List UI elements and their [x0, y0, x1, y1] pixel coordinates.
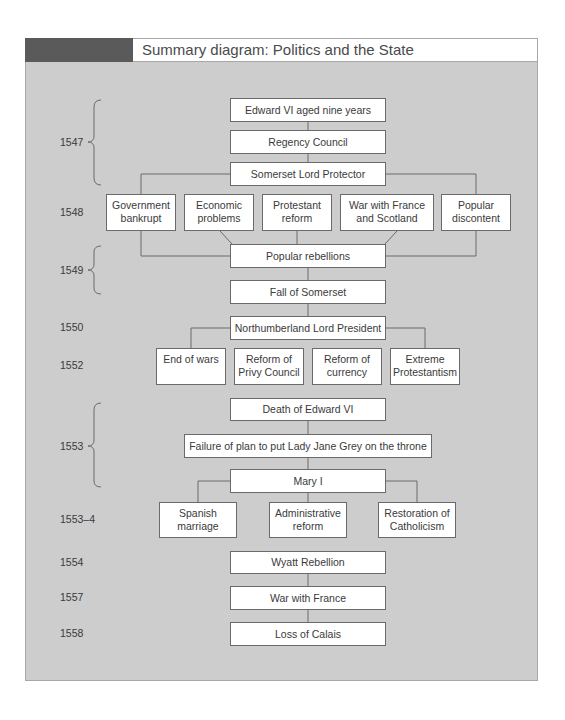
node-end-of-wars: End of wars	[156, 348, 226, 385]
node-spanish-marriage: Spanish marriage	[159, 502, 237, 538]
node-loss-of-calais: Loss of Calais	[230, 622, 386, 646]
year-label-1553-4: 1553–4	[60, 513, 95, 525]
node-death-of-edward: Death of Edward VI	[230, 398, 386, 421]
brace-1553	[88, 403, 101, 487]
node-government-bankrupt: Government bankrupt	[106, 194, 176, 231]
node-northumberland: Northumberland Lord President	[230, 316, 386, 340]
node-wyatt-rebellion: Wyatt Rebellion	[230, 551, 386, 574]
year-label-1550: 1550	[60, 321, 83, 333]
node-mary-i: Mary I	[230, 469, 386, 493]
year-label-1553: 1553	[60, 440, 83, 452]
brace-1547	[88, 100, 101, 185]
node-war-france-scotland: War with France and Scotland	[340, 194, 434, 231]
node-regency-council: Regency Council	[230, 130, 386, 154]
node-administrative-reform: Administrative reform	[269, 502, 347, 538]
node-restoration-catholicism: Restoration of Catholicism	[378, 502, 456, 538]
node-fall-of-somerset: Fall of Somerset	[230, 280, 386, 304]
node-war-with-france: War with France	[230, 586, 386, 610]
node-failure-jane-grey: Failure of plan to put Lady Jane Grey on…	[184, 434, 432, 458]
node-economic-problems: Economic problems	[184, 194, 254, 231]
year-label-1547: 1547	[60, 136, 83, 148]
year-label-1548: 1548	[60, 206, 83, 218]
year-label-1558: 1558	[60, 627, 83, 639]
brace-1549	[88, 246, 101, 294]
node-extreme-protestantism: Extreme Protestantism	[390, 348, 460, 385]
node-popular-rebellions: Popular rebellions	[230, 244, 386, 268]
node-protestant-reform: Protestant reform	[262, 194, 332, 231]
node-edward-vi: Edward VI aged nine years	[230, 98, 386, 122]
year-label-1557: 1557	[60, 591, 83, 603]
year-label-1549: 1549	[60, 264, 83, 276]
node-reform-currency: Reform of currency	[312, 348, 382, 385]
node-reform-privy-council: Reform of Privy Council	[234, 348, 304, 385]
node-somerset: Somerset Lord Protector	[230, 162, 386, 186]
year-label-1552: 1552	[60, 359, 83, 371]
node-popular-discontent: Popular discontent	[441, 194, 511, 231]
year-label-1554: 1554	[60, 556, 83, 568]
